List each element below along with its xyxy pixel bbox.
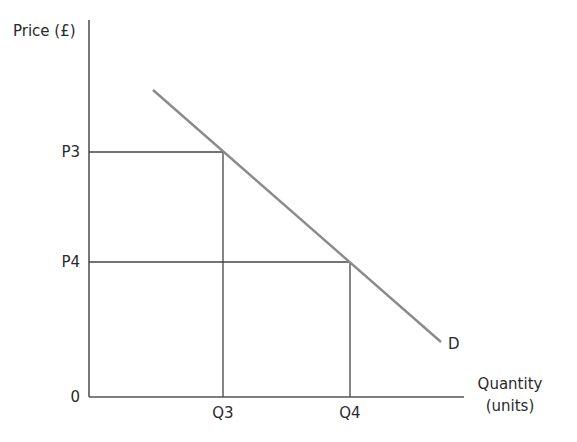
demand-label: D — [448, 335, 460, 353]
y-tick-p3: P3 — [40, 143, 80, 161]
y-tick-p4: P4 — [40, 253, 80, 271]
x-tick-q4: Q4 — [325, 404, 375, 422]
origin-label: 0 — [40, 388, 80, 406]
x-axis-label-line1: Quantity — [470, 375, 550, 393]
x-axis-label-line2: (units) — [470, 397, 550, 415]
x-tick-q3: Q3 — [198, 404, 248, 422]
demand-curve — [153, 90, 441, 342]
y-axis-label: Price (£) — [13, 22, 76, 40]
